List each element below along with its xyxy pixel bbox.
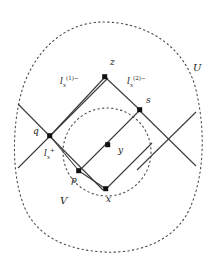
point-label-y: y [118,146,123,155]
point-marker-q [47,133,52,138]
crossing-line-q-a [18,104,103,190]
point-label-z: z [110,58,115,67]
figure-canvas: z s q y p x U V lx(1)− lx(2)− lx+ [0,0,220,268]
set-label-U: U [193,63,201,73]
point-label-q: q [33,127,39,136]
line-label-lxp-sup: + [50,147,55,153]
point-marker-s [137,107,142,112]
edge-p-x [79,171,106,189]
crossing-line-right-b [137,112,196,170]
line-label-lx2-sup: (2)− [133,75,146,81]
line-label-lx1-minus: lx(1)− [60,76,79,88]
line-label-lx-plus: lx+ [44,148,55,160]
crossing-line-right-a [137,108,196,166]
line-label-lx2-minus: lx(2)− [127,76,146,88]
edge-p-y-s [79,110,140,171]
point-label-x: x [106,195,111,204]
point-marker-x [103,186,108,191]
point-marker-y [105,142,110,147]
line-label-lxp-sub: x [47,154,50,160]
point-label-p: p [71,176,77,185]
line-label-lx1-sub: x [63,82,66,88]
point-marker-z [102,74,107,79]
point-marker-p [76,168,81,173]
point-label-s: s [146,96,151,105]
edge-x-right [106,143,152,189]
crossing-line-q-b [18,78,108,168]
set-label-V: V [60,196,67,206]
outer-region-U-boundary [14,22,202,252]
line-label-lx1-sup: (1)− [66,75,79,81]
line-label-lx2-sub: x [130,82,133,88]
